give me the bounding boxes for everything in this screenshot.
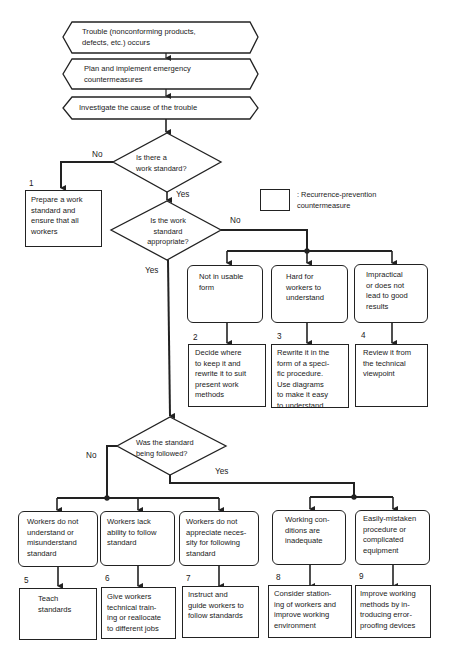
decision-standard-appropriate-yes-label: Yes: [145, 266, 158, 275]
countermeasure-box-7: Instruct and guide workers to follow sta…: [182, 586, 259, 638]
countermeasure-box-4: Review it from the technical viewpoint: [355, 344, 428, 407]
decision-has-standard-yes-label: Yes: [176, 190, 189, 199]
step-investigate: Investigate the cause of the trouble: [79, 103, 197, 114]
cause-box-misunderstand: Workers do not understand or misundersta…: [18, 511, 98, 567]
countermeasure-number: 7: [186, 574, 191, 583]
countermeasure-number: 6: [105, 574, 110, 583]
decision-has-standard-no-label: No: [92, 150, 102, 159]
step-trouble: Trouble (nonconforming products, defects…: [82, 27, 196, 48]
cause-box-hard-to-understand: Hard for workers to understand: [271, 265, 348, 323]
cause-box-impractical: Impractical or does not lead to good res…: [354, 264, 428, 323]
decision-standard-appropriate-no-label: No: [230, 216, 240, 225]
countermeasure-box-9: Improve working methods by in- troducing…: [355, 585, 431, 638]
decision-has-standard-text: Is there a work standard?: [136, 153, 187, 174]
step-emergency: Plan and implement emergency countermeas…: [84, 64, 191, 85]
decision-standard-appropriate-text: Is the work standard appropriate?: [138, 216, 198, 248]
countermeasure-number: 9: [359, 572, 364, 581]
countermeasure-box-8: Consider station- ing of workers and imp…: [268, 585, 352, 638]
decision-standard-followed-text: Was the standard being followed?: [136, 438, 194, 459]
countermeasure-number: 8: [276, 573, 281, 582]
cause-box-not-usable: Not in usable form: [187, 265, 263, 323]
countermeasure-box-2: Decide where to keep it and rewrite it t…: [188, 344, 266, 407]
cause-box-working-conditions: Working con- ditions are inadequate: [272, 510, 346, 565]
countermeasure-number: 3: [277, 332, 282, 341]
cause-box-not-appreciate: Workers do not appreciate neces- sity fo…: [179, 511, 259, 566]
countermeasure-number: 1: [29, 179, 34, 188]
cause-box-easily-mistaken: Easily-mistaken procedure or complicated…: [355, 510, 430, 565]
countermeasure-box-1: Prepare a work standard and ensure that …: [25, 190, 102, 247]
countermeasure-box-5: Teach standards: [19, 588, 97, 640]
countermeasure-number: 4: [361, 331, 366, 340]
countermeasure-box-6: Give workers technical train- ing or rea…: [101, 587, 176, 639]
legend-text: : Recurrence-prevention countermeasure: [297, 190, 376, 211]
legend-swatch: [260, 189, 290, 211]
cause-box-lack-ability: Workers lack ability to follow standard: [100, 511, 175, 566]
countermeasure-box-3: Rewrite it in the form of a speci- fic p…: [271, 344, 349, 408]
decision-standard-followed-no-label: No: [86, 451, 96, 460]
countermeasure-number: 5: [24, 576, 29, 585]
decision-standard-followed-yes-label: Yes: [215, 467, 228, 476]
countermeasure-number: 2: [193, 333, 198, 342]
